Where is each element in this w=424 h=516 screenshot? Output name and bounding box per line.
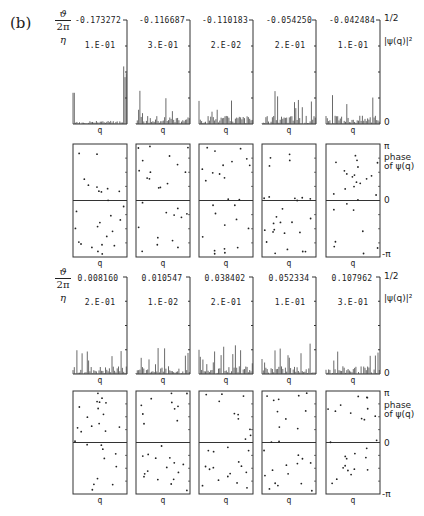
svg-text:q: q: [161, 259, 166, 268]
svg-text:q: q: [224, 376, 229, 385]
svg-text:q: q: [161, 496, 166, 505]
svg-text:q: q: [98, 496, 103, 505]
svg-text:q: q: [351, 259, 356, 268]
svg-text:q: q: [98, 376, 103, 385]
svg-text:q: q: [351, 376, 356, 385]
svg-text:q: q: [287, 376, 292, 385]
svg-text:q: q: [287, 496, 292, 505]
svg-text:q: q: [161, 126, 166, 135]
svg-text:q: q: [287, 259, 292, 268]
svg-text:q: q: [287, 126, 292, 135]
svg-text:q: q: [161, 376, 166, 385]
svg-text:q: q: [351, 126, 356, 135]
svg-text:q: q: [224, 126, 229, 135]
svg-text:q: q: [224, 259, 229, 268]
svg-text:q: q: [98, 126, 103, 135]
svg-text:q: q: [98, 259, 103, 268]
figure-plots: qqqqqqqqqqqqqqqqqqqq: [0, 0, 424, 516]
svg-text:q: q: [224, 496, 229, 505]
svg-text:q: q: [351, 496, 356, 505]
